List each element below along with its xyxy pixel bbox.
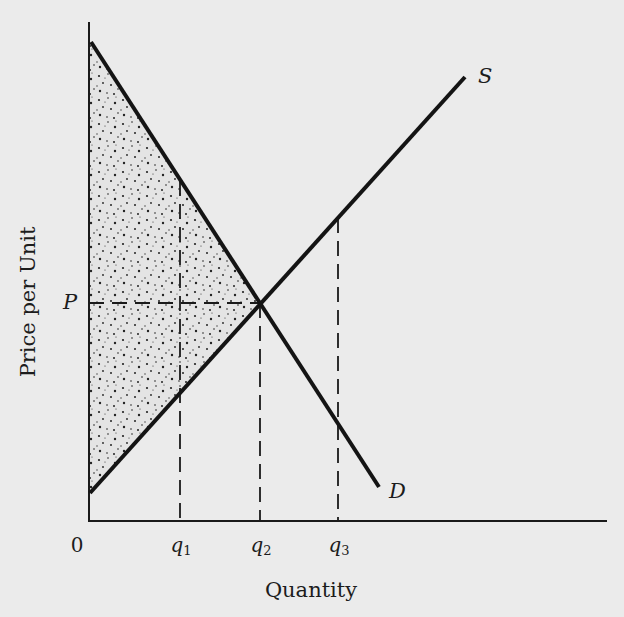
demand-label: D	[389, 481, 406, 502]
tick-q2-sub: 2	[263, 543, 271, 558]
origin-label: 0	[71, 533, 84, 557]
tick-q1: q1	[170, 533, 191, 558]
y-axis-title: Price per Unit	[16, 227, 40, 378]
tick-q2: q2	[250, 533, 271, 558]
x-axis-title: Quantity	[265, 578, 357, 602]
tick-q3: q3	[328, 533, 349, 558]
supply-demand-diagram	[0, 0, 624, 617]
price-label: P	[63, 292, 77, 313]
tick-q2-name: q	[250, 533, 263, 557]
supply-label: S	[478, 66, 492, 87]
tick-q3-name: q	[328, 533, 341, 557]
shaded-surplus-region	[89, 42, 260, 493]
tick-q1-sub: 1	[183, 543, 191, 558]
tick-q3-sub: 3	[341, 543, 349, 558]
tick-q1-name: q	[170, 533, 183, 557]
